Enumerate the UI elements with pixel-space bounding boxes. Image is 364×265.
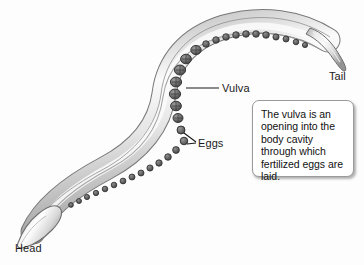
nematode-figure: Vulva Eggs Head Tail The vulva is an ope…: [0, 0, 364, 265]
label-tail: Tail: [329, 70, 346, 82]
callout-box: The vulva is an opening into the body ca…: [252, 100, 354, 177]
label-eggs: Eggs: [198, 137, 223, 149]
callout-text: The vulva is an opening into the body ca…: [261, 108, 346, 182]
label-vulva: Vulva: [222, 82, 250, 94]
label-head: Head: [15, 242, 42, 254]
